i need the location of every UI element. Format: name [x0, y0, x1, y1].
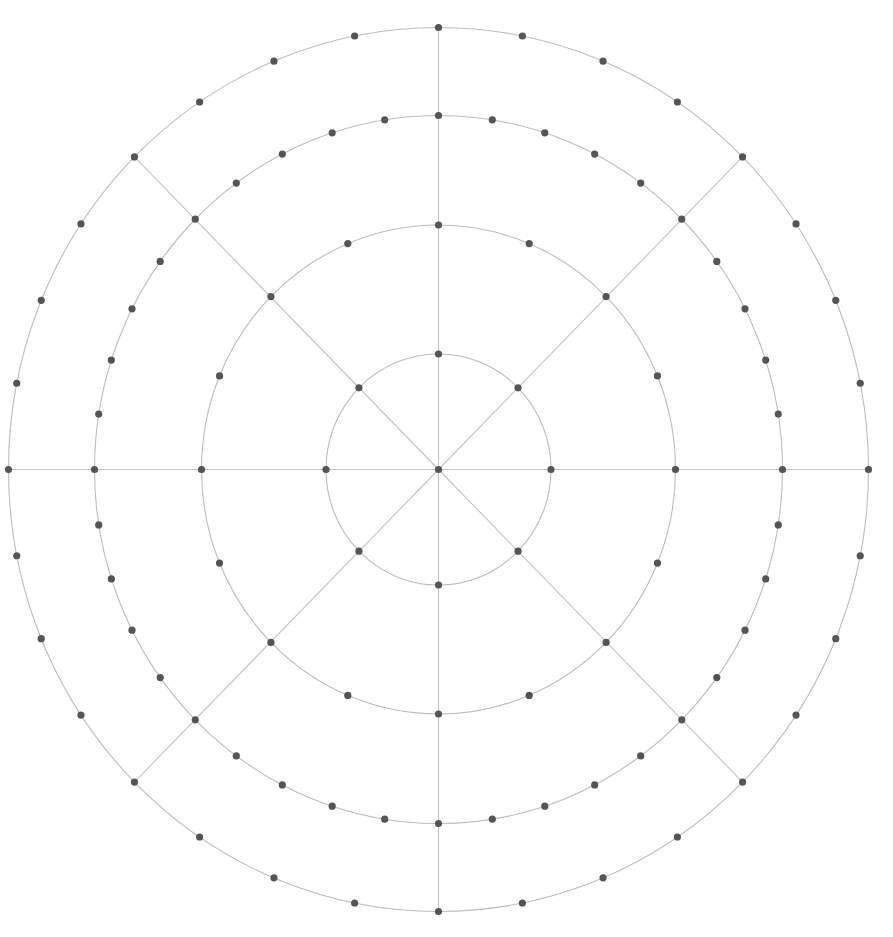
ring-3-node — [279, 150, 286, 157]
ring-2-node — [654, 559, 661, 566]
ring-2-node — [526, 692, 533, 699]
ring-3-node — [192, 716, 199, 723]
ring-4-node — [270, 874, 277, 881]
ring-3-node — [157, 674, 164, 681]
ring-2-node — [654, 372, 661, 379]
ring-3-node — [95, 411, 102, 418]
ring-3-node — [329, 129, 336, 136]
ring-4-node — [131, 153, 138, 160]
ring-3-node — [91, 466, 98, 473]
ring-2-node — [267, 293, 274, 300]
ring-4-node — [599, 874, 606, 881]
spoke-line — [134, 470, 438, 783]
ring-4-node — [865, 466, 872, 473]
ring-2-node — [435, 710, 442, 717]
ring-3-node — [157, 258, 164, 265]
ring-4-node — [599, 58, 606, 65]
ring-4-node — [435, 24, 442, 31]
polar-grid-diagram — [0, 0, 893, 937]
ring-4-node — [196, 833, 203, 840]
ring-2-node — [216, 372, 223, 379]
ring-2-node — [344, 240, 351, 247]
ring-2-node — [602, 293, 609, 300]
ring-4-node — [739, 153, 746, 160]
ring-4-node — [832, 635, 839, 642]
ring-4-node — [351, 899, 358, 906]
ring-2-node — [267, 639, 274, 646]
ring-4-node — [13, 552, 20, 559]
ring-3-node — [762, 575, 769, 582]
ring-4-node — [519, 899, 526, 906]
ring-3-node — [541, 803, 548, 810]
ring-3-node — [329, 803, 336, 810]
ring-3-node — [95, 521, 102, 528]
ring-4-node — [131, 778, 138, 785]
ring-2-node — [672, 466, 679, 473]
ring-4-node — [674, 833, 681, 840]
ring-1-node — [355, 384, 362, 391]
ring-3-node — [678, 216, 685, 223]
spoke-line — [439, 470, 743, 783]
ring-4-node — [519, 32, 526, 39]
ring-1-node — [547, 466, 554, 473]
ring-3-node — [713, 674, 720, 681]
ring-3-node — [713, 258, 720, 265]
ring-3-node — [591, 781, 598, 788]
ring-3-node — [108, 357, 115, 364]
ring-1-node — [514, 384, 521, 391]
ring-3-node — [435, 112, 442, 119]
ring-4-node — [674, 98, 681, 105]
ring-3-node — [762, 357, 769, 364]
ring-4-node — [792, 711, 799, 718]
ring-3-node — [233, 180, 240, 187]
ring-3-node — [637, 752, 644, 759]
spoke-line — [134, 157, 438, 470]
ring-2-node — [526, 240, 533, 247]
ring-3-node — [591, 150, 598, 157]
ring-3-node — [741, 305, 748, 312]
ring-3-node — [678, 716, 685, 723]
ring-4-node — [77, 711, 84, 718]
ring-2-node — [344, 692, 351, 699]
ring-4-node — [739, 778, 746, 785]
ring-4-node — [832, 297, 839, 304]
ring-1-node — [514, 548, 521, 555]
ring-3-node — [435, 820, 442, 827]
ring-3-node — [108, 575, 115, 582]
ring-4-node — [857, 380, 864, 387]
ring-4-node — [792, 220, 799, 227]
ring-3-node — [775, 521, 782, 528]
ring-3-node — [489, 816, 496, 823]
ring-3-node — [381, 816, 388, 823]
ring-4-node — [38, 297, 45, 304]
ring-4-node — [270, 58, 277, 65]
ring-2-node — [198, 466, 205, 473]
ring-3-node — [541, 129, 548, 136]
ring-4-node — [196, 98, 203, 105]
spoke-line — [439, 157, 743, 470]
ring-3-node — [779, 466, 786, 473]
ring-3-node — [775, 411, 782, 418]
ring-3-node — [741, 627, 748, 634]
ring-3-node — [381, 116, 388, 123]
ring-1-node — [322, 466, 329, 473]
ring-4-node — [351, 32, 358, 39]
ring-4-node — [5, 466, 12, 473]
ring-1-node — [435, 350, 442, 357]
ring-1-node — [355, 548, 362, 555]
ring-3-node — [128, 627, 135, 634]
ring-3-node — [279, 781, 286, 788]
ring-3-node — [489, 116, 496, 123]
ring-3-node — [637, 180, 644, 187]
ring-4-node — [77, 220, 84, 227]
ring-1-node — [435, 581, 442, 588]
ring-4-node — [13, 380, 20, 387]
ring-4-node — [857, 552, 864, 559]
ring-3-node — [233, 752, 240, 759]
ring-2-node — [602, 639, 609, 646]
ring-3-node — [128, 305, 135, 312]
center-node — [435, 466, 442, 473]
ring-4-node — [38, 635, 45, 642]
ring-3-node — [192, 216, 199, 223]
ring-4-node — [435, 908, 442, 915]
